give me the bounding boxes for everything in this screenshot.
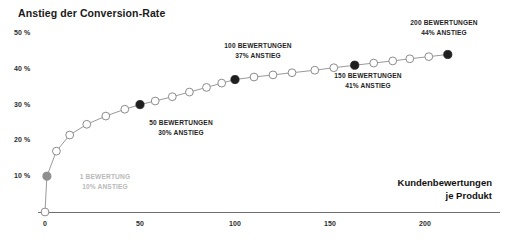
annot-200-ratings-line2: 44% ANSTIEG (410, 28, 477, 38)
data-point-0 (41, 208, 49, 216)
data-point-110 (250, 73, 258, 81)
annot-200-ratings-line1: 200 BEWERTUNGEN (410, 19, 477, 26)
annot-100-ratings-line2: 37% ANSTIEG (224, 51, 291, 61)
annot-50-ratings: 50 BEWERTUNGEN30% ANSTIEG (149, 118, 213, 137)
data-point-183 (389, 57, 397, 65)
data-point-130 (288, 69, 296, 77)
annot-1-rating: 1 BEWERTUNG10% ANSTIEG (80, 172, 130, 191)
data-point-32 (102, 112, 110, 120)
data-point-13 (66, 131, 74, 139)
annot-150-ratings-line1: 150 BEWERTUNGEN (334, 72, 401, 79)
x-axis-label-line2: je Produkt (446, 190, 492, 201)
annot-100-ratings-line1: 100 BEWERTUNGEN (224, 42, 291, 49)
data-point-120 (269, 71, 277, 79)
annot-100-ratings: 100 BEWERTUNGEN37% ANSTIEG (224, 41, 291, 60)
data-point-163 (351, 61, 359, 69)
data-point-6 (53, 147, 61, 155)
data-point-22 (83, 120, 91, 128)
data-point-173 (370, 59, 378, 67)
annot-50-ratings-line2: 30% ANSTIEG (149, 128, 213, 138)
annot-1-rating-line2: 10% ANSTIEG (80, 182, 130, 192)
data-point-202 (425, 53, 433, 61)
x-axis-label-line1: Kundenbewertungen (398, 177, 492, 188)
data-point-85 (203, 84, 211, 92)
data-point-67 (168, 93, 176, 101)
conversion-rate-chart: Anstieg der Conversion-Rate 10 %20 %30 %… (0, 0, 506, 245)
data-point-93 (218, 79, 226, 87)
annot-1-rating-line1: 1 BEWERTUNG (80, 173, 130, 180)
data-point-1 (43, 172, 51, 180)
x-axis-label: Kundenbewertungen je Produkt (300, 176, 492, 202)
annot-200-ratings: 200 BEWERTUNGEN44% ANSTIEG (410, 18, 477, 37)
annot-50-ratings-line1: 50 BEWERTUNGEN (149, 119, 213, 126)
data-point-212 (444, 50, 452, 58)
data-point-76 (186, 88, 194, 96)
annot-150-ratings: 150 BEWERTUNGEN41% ANSTIEG (334, 71, 401, 90)
data-point-42 (121, 105, 129, 113)
data-point-100 (231, 75, 239, 83)
data-point-50 (136, 101, 144, 109)
data-point-192 (406, 55, 414, 63)
data-point-142 (311, 66, 319, 74)
annot-150-ratings-line2: 41% ANSTIEG (334, 81, 401, 91)
data-point-58 (151, 97, 159, 105)
